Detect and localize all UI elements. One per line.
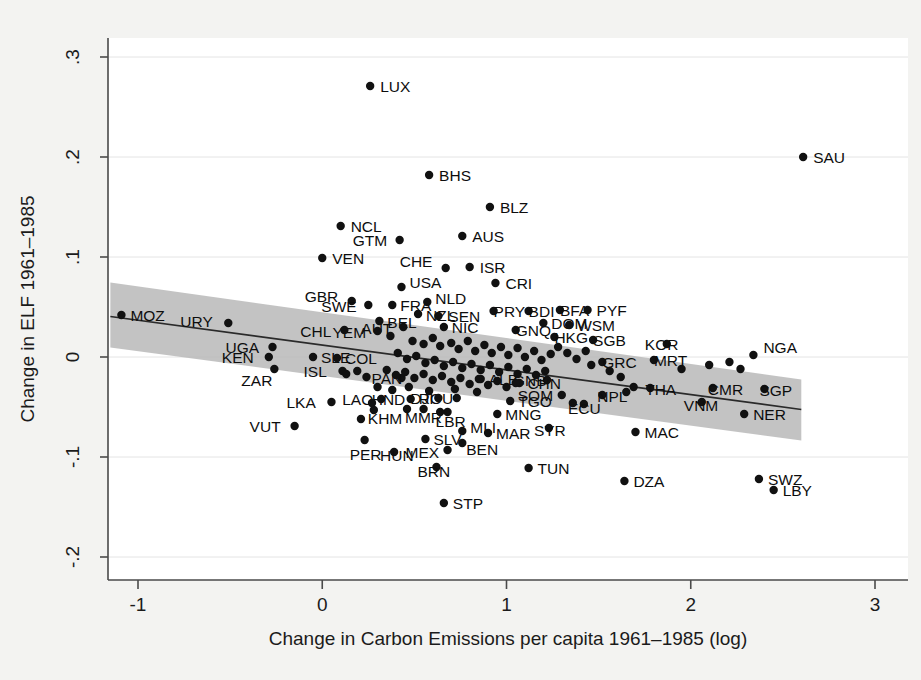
- x-axis-title: Change in Carbon Emissions per capita 19…: [269, 628, 747, 649]
- x-tick-labels: -10123: [130, 594, 881, 615]
- data-point-marker: [740, 410, 748, 418]
- data-point-marker: [440, 499, 448, 507]
- data-point-marker: [419, 370, 427, 378]
- data-point-label: LBY: [783, 482, 812, 499]
- data-point-marker: [438, 372, 446, 380]
- data-point-marker: [403, 355, 411, 363]
- data-point-label: KEN: [222, 349, 254, 366]
- data-point-marker: [327, 398, 335, 406]
- data-point-marker: [583, 306, 591, 314]
- data-point-label: HND: [372, 391, 406, 408]
- data-point-marker: [620, 477, 628, 485]
- data-point-marker: [388, 386, 396, 394]
- data-point-marker: [458, 232, 466, 240]
- data-point-marker: [406, 395, 414, 403]
- data-point-marker: [477, 366, 485, 374]
- data-point-marker: [569, 399, 577, 407]
- data-point-marker: [373, 327, 381, 335]
- data-point-label: KOR: [645, 336, 679, 353]
- data-point-marker: [440, 323, 448, 331]
- data-point-marker: [582, 347, 590, 355]
- y-axis-title: Change in ELF 1961–1985: [17, 195, 38, 422]
- data-point-marker: [410, 374, 418, 382]
- data-point-label: TUN: [538, 460, 570, 477]
- data-point-marker: [434, 312, 442, 320]
- data-point-marker: [366, 82, 374, 90]
- data-point-marker: [493, 410, 501, 418]
- data-point-label: PER: [350, 446, 382, 463]
- data-point-marker: [268, 343, 276, 351]
- y-tick-labels: .3.2.10-.1-.2: [62, 49, 83, 568]
- data-point-marker: [513, 344, 521, 352]
- data-point-label: GTM: [353, 232, 387, 249]
- data-point-marker: [497, 343, 505, 351]
- y-tick-label: .1: [62, 249, 83, 265]
- data-point-marker: [493, 377, 501, 385]
- data-point-marker: [405, 383, 413, 391]
- data-point-marker: [558, 391, 566, 399]
- data-point-label: CHL: [300, 323, 331, 340]
- data-point-marker: [677, 365, 685, 373]
- data-point-marker: [421, 435, 429, 443]
- data-point-marker: [471, 347, 479, 355]
- data-point-marker: [631, 428, 639, 436]
- data-point-marker: [617, 373, 625, 381]
- y-tick-label: .2: [62, 149, 83, 165]
- data-point-marker: [449, 358, 457, 366]
- data-point-marker: [480, 341, 488, 349]
- data-point-marker: [425, 171, 433, 179]
- data-point-label: SWE: [321, 298, 356, 315]
- data-point-marker: [419, 340, 427, 348]
- data-point-marker: [537, 356, 545, 364]
- data-point-marker: [495, 368, 503, 376]
- data-point-marker: [421, 359, 429, 367]
- data-point-marker: [392, 371, 400, 379]
- data-point-label: KHM: [368, 410, 402, 427]
- data-point-marker: [430, 356, 438, 364]
- data-point-marker: [412, 352, 420, 360]
- data-point-marker: [383, 366, 391, 374]
- scatter-plot: LUXSAUBHSBLZNCLAUSGTMVENCHEISRCRIUSAGBRS…: [0, 0, 921, 680]
- data-point-marker: [340, 326, 348, 334]
- data-point-label: PRY: [494, 303, 526, 320]
- data-point-marker: [465, 380, 473, 388]
- data-point-marker: [456, 374, 464, 382]
- data-point-label: VUT: [250, 418, 282, 435]
- data-point-marker: [440, 362, 448, 370]
- data-point-marker: [388, 301, 396, 309]
- data-point-marker: [458, 439, 466, 447]
- data-point-label: GNQ: [516, 322, 551, 339]
- data-point-marker: [360, 436, 368, 444]
- data-point-marker: [364, 301, 372, 309]
- data-point-marker: [434, 394, 442, 402]
- data-point-marker: [504, 363, 512, 371]
- data-point-label: USA: [409, 274, 442, 291]
- data-point-marker: [357, 415, 365, 423]
- data-point-marker: [475, 375, 483, 383]
- data-point-marker: [502, 383, 510, 391]
- data-point-marker: [506, 397, 514, 405]
- data-point-marker: [521, 353, 529, 361]
- data-point-marker: [605, 367, 613, 375]
- data-point-marker: [458, 364, 466, 372]
- data-point-marker: [353, 367, 361, 375]
- data-point-label: VEN: [332, 250, 364, 267]
- data-point-marker: [465, 263, 473, 271]
- data-point-marker: [769, 486, 777, 494]
- data-point-marker: [362, 373, 370, 381]
- data-point-label: AUS: [472, 228, 504, 245]
- data-point-label: BLZ: [500, 199, 528, 216]
- data-point-marker: [436, 342, 444, 350]
- data-point-label: VNM: [684, 397, 718, 414]
- data-point-label: BRN: [417, 463, 450, 480]
- data-point-marker: [565, 321, 573, 329]
- data-point-label: THA: [645, 381, 677, 398]
- data-point-label: STP: [453, 495, 483, 512]
- data-point-marker: [429, 376, 437, 384]
- data-point-label: COL: [345, 350, 377, 367]
- data-point-marker: [447, 339, 455, 347]
- data-point-label: MNG: [505, 406, 541, 423]
- y-tick-label: 0: [62, 352, 83, 363]
- data-point-marker: [749, 351, 757, 359]
- data-point-marker: [473, 388, 481, 396]
